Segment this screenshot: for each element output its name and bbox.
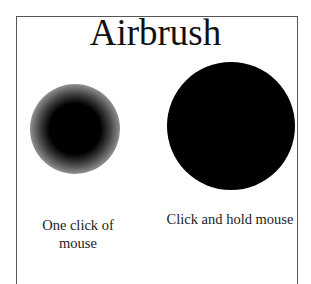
- caption-click-hold: Click and hold mouse: [160, 210, 300, 228]
- airbrush-dot-single-click: [30, 84, 120, 174]
- caption-single-click-line2: mouse: [28, 234, 128, 252]
- diagram-title: Airbrush: [0, 14, 311, 51]
- caption-single-click: One click of mouse: [28, 216, 128, 252]
- caption-single-click-line1: One click of: [28, 216, 128, 234]
- airbrush-dot-click-hold: [167, 62, 295, 190]
